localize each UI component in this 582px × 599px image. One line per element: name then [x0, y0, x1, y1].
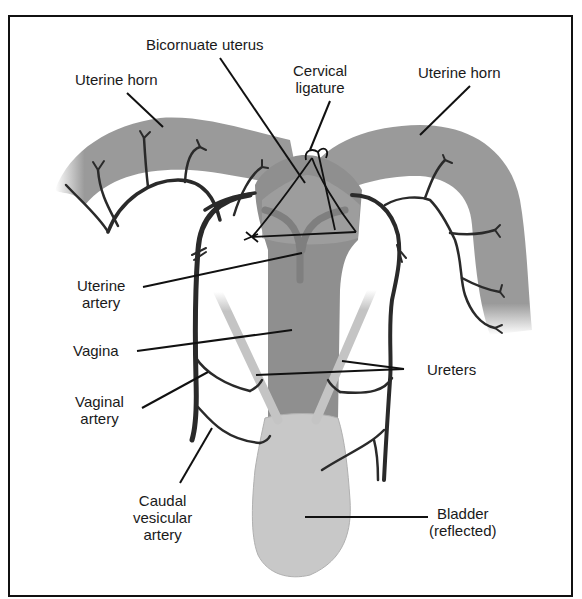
label-text: ligature: [293, 79, 347, 96]
label-text: Uterine horn: [418, 64, 501, 81]
label-text: Uterine horn: [75, 71, 158, 88]
label-caudal-vesicular-artery: Caudal vesicular artery: [133, 492, 192, 543]
label-text: Uterine: [77, 277, 125, 294]
label-text: Vagina: [73, 342, 119, 359]
bladder: [252, 414, 350, 577]
label-text: Bicornuate uterus: [146, 36, 264, 53]
label-ureters: Ureters: [427, 361, 476, 378]
label-bladder: Bladder (reflected): [429, 505, 497, 539]
label-bicornuate-uterus: Bicornuate uterus: [146, 36, 264, 53]
label-text: artery: [75, 410, 124, 427]
label-text: Bladder: [429, 505, 497, 522]
label-uterine-horn-left: Uterine horn: [75, 71, 158, 88]
label-text: artery: [77, 294, 125, 311]
label-uterine-artery: Uterine artery: [77, 277, 125, 311]
label-text: Cervical: [293, 62, 347, 79]
label-cervical-ligature: Cervical ligature: [293, 62, 347, 96]
label-vagina: Vagina: [73, 342, 119, 359]
label-text: vesicular: [133, 509, 192, 526]
label-text: (reflected): [429, 522, 497, 539]
label-text: artery: [133, 526, 192, 543]
label-text: Vaginal: [75, 393, 124, 410]
label-vaginal-artery: Vaginal artery: [75, 393, 124, 427]
label-uterine-horn-right: Uterine horn: [418, 64, 501, 81]
label-text: Caudal: [133, 492, 192, 509]
label-text: Ureters: [427, 361, 476, 378]
